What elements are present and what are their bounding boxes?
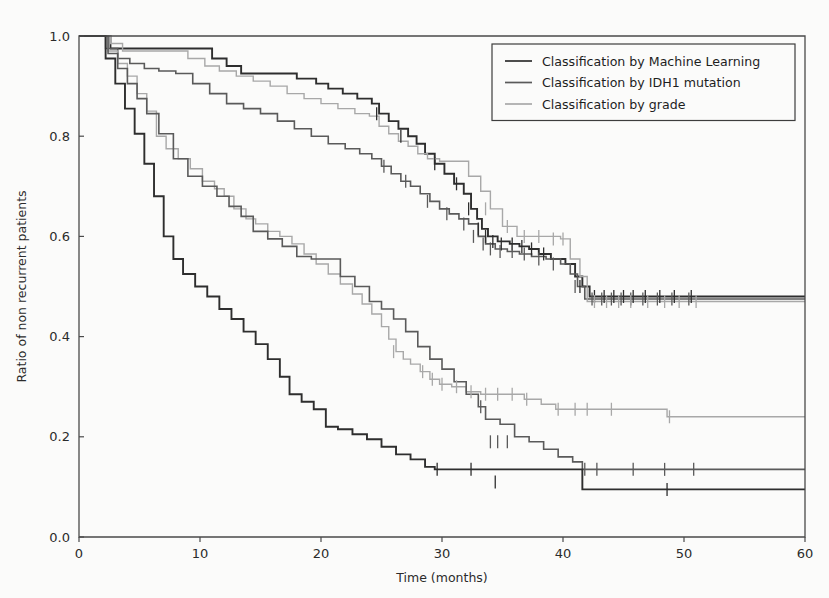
y-tick-label: 0.2 (49, 429, 70, 444)
y-tick-label: 0.8 (49, 129, 70, 144)
y-tick-label: 0.0 (49, 530, 70, 545)
y-tick-label: 1.0 (49, 29, 70, 44)
x-tick-label: 60 (797, 546, 814, 561)
x-axis-title: Time (months) (395, 570, 487, 585)
x-tick-label: 30 (434, 546, 451, 561)
y-axis-title: Ratio of non recurrent patients (14, 190, 29, 382)
y-tick-label: 0.4 (49, 329, 70, 344)
km-plot-canvas: 01020304050600.00.20.40.60.81.0Time (mon… (0, 0, 829, 598)
y-tick-label: 0.6 (49, 229, 70, 244)
x-tick-label: 20 (313, 546, 330, 561)
censor-layer (377, 107, 696, 496)
x-tick-label: 10 (192, 546, 209, 561)
x-tick-label: 50 (676, 546, 693, 561)
x-tick-label: 0 (75, 546, 83, 561)
x-tick-label: 40 (555, 546, 572, 561)
legend-layer: Classification by Machine LearningClassi… (492, 44, 795, 121)
legend-label-1: Classification by IDH1 mutation (542, 75, 741, 90)
legend-label-0: Classification by Machine Learning (542, 54, 760, 69)
legend-label-2: Classification by grade (542, 97, 686, 112)
kaplan-meier-figure: 01020304050600.00.20.40.60.81.0Time (mon… (0, 0, 829, 598)
